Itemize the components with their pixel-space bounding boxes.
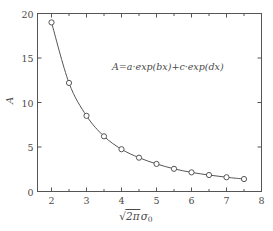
y-axis-label: A [4,97,15,104]
data-point-marker [49,20,54,25]
data-point-marker [171,166,176,171]
plot-canvas [0,0,273,231]
data-point-marker [119,147,124,152]
y-tick-label: 0 [27,186,33,197]
data-point-marker [241,176,246,181]
sqrt-radicand: 2π [125,209,141,222]
y-tick-label: 20 [21,8,33,19]
data-point-marker [66,80,71,85]
plot-frame [38,14,262,192]
x-tick-label: 3 [83,195,89,206]
sigma-subscript: 0 [148,215,153,224]
x-axis-label: √2πσ0 [119,209,152,224]
data-point-marker [84,113,89,118]
data-point-marker [224,175,229,180]
sqrt-expression: √2π [119,209,140,222]
y-tick-label: 15 [21,53,33,64]
x-tick-label: 6 [188,195,194,206]
data-point-marker [101,134,106,139]
data-point-marker [189,170,194,175]
equation-annotation: A=a·exp(bx)+c·exp(dx) [112,61,224,72]
chart-figure: 2345678 05101520 A √2πσ0 A=a·exp(bx)+c·e… [0,0,273,231]
x-tick-label: 4 [118,195,124,206]
x-tick-label: 5 [153,195,159,206]
y-tick-label: 5 [27,142,33,153]
data-point-marker [154,161,159,166]
y-tick-label: 10 [21,97,33,108]
x-tick-label: 2 [48,195,54,206]
data-point-marker [136,155,141,160]
x-tick-label: 8 [258,195,264,206]
x-tick-label: 7 [223,195,229,206]
data-point-marker [206,172,211,177]
